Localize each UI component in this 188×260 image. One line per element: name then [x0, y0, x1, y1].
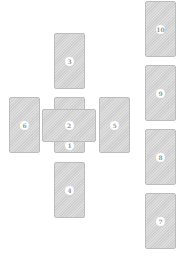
card-position-5[interactable]: 5 [99, 97, 130, 153]
card-number-badge: 10 [156, 25, 165, 34]
card-number-badge: 1 [65, 141, 74, 150]
card-number-badge: 6 [20, 121, 29, 130]
card-number-badge: 8 [156, 153, 165, 162]
card-number-badge: 3 [65, 57, 74, 66]
card-position-9[interactable]: 9 [145, 65, 176, 121]
card-number-badge: 4 [65, 186, 74, 195]
card-number-badge: 5 [110, 121, 119, 130]
card-number-badge: 2 [65, 121, 74, 130]
card-position-8[interactable]: 8 [145, 129, 176, 185]
card-position-4[interactable]: 4 [54, 162, 85, 218]
card-position-10[interactable]: 10 [145, 1, 176, 57]
card-position-7[interactable]: 7 [145, 193, 176, 249]
card-position-2[interactable]: 2 [42, 109, 96, 142]
card-position-6[interactable]: 6 [9, 97, 40, 153]
card-number-badge: 7 [156, 217, 165, 226]
tarot-spread-layout: 3 1 2 6 5 4 10 9 8 7 [0, 0, 188, 260]
card-position-3[interactable]: 3 [54, 33, 85, 89]
card-number-badge: 9 [156, 89, 165, 98]
